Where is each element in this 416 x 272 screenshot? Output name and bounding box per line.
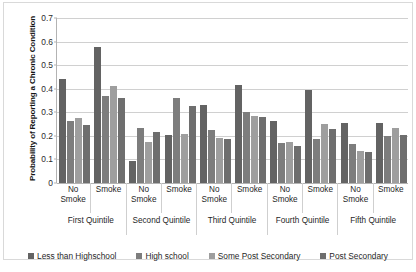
y-axis-title: Probability of Reporting a Chronic Condi… xyxy=(28,14,37,184)
bar xyxy=(94,47,101,183)
bar xyxy=(259,117,266,183)
bar xyxy=(321,124,328,183)
chart-container: Probability of Reporting a Chronic Condi… xyxy=(0,0,416,272)
legend-swatch-icon xyxy=(136,253,142,259)
bar xyxy=(75,118,82,183)
bar xyxy=(137,128,144,183)
bar-group xyxy=(374,18,409,183)
bar-group xyxy=(92,18,127,183)
legend-swatch-icon xyxy=(28,253,34,259)
bar-group xyxy=(303,18,338,183)
bar-group xyxy=(163,18,198,183)
bar xyxy=(235,85,242,183)
x-axis-category-label: Smoke xyxy=(162,183,197,213)
x-axis: NoSmokeSmokeNoSmokeSmokeNoSmokeSmokeNoSm… xyxy=(56,183,408,235)
bar xyxy=(208,130,215,183)
legend-swatch-icon xyxy=(320,253,326,259)
x-axis-smoke-labels: NoSmokeSmokeNoSmokeSmokeNoSmokeSmokeNoSm… xyxy=(56,183,408,213)
bar xyxy=(129,161,136,183)
bar xyxy=(329,129,336,183)
plot-area: 00.10.20.30.40.50.60.7 xyxy=(56,18,408,183)
legend-label: Less than Highschool xyxy=(37,251,116,261)
bar xyxy=(153,132,160,183)
bar xyxy=(118,98,125,183)
bar xyxy=(278,143,285,183)
x-axis-category-label: Smoke xyxy=(303,183,338,213)
x-axis-quintile-label: Third Quintile xyxy=(197,213,268,235)
y-tick-label: 0.3 xyxy=(41,107,53,117)
x-axis-category-label: NoSmoke xyxy=(338,183,373,213)
y-tick-label: 0.1 xyxy=(41,154,53,164)
bar xyxy=(224,139,231,183)
x-axis-quintile-label: Fifth Quintile xyxy=(338,213,408,235)
x-axis-category-label: Smoke xyxy=(232,183,267,213)
bottom-edge-strip xyxy=(0,262,416,272)
legend-label: High school xyxy=(145,251,188,261)
x-axis-quintile-labels: First QuintileSecond QuintileThird Quint… xyxy=(56,213,408,235)
x-axis-category-label: NoSmoke xyxy=(268,183,303,213)
legend-label: Post Secondary xyxy=(329,251,388,261)
x-axis-category-label: Smoke xyxy=(91,183,126,213)
bar xyxy=(313,139,320,183)
x-axis-category-label: Smoke xyxy=(374,183,408,213)
bar xyxy=(173,98,180,183)
bar xyxy=(200,105,207,183)
bar xyxy=(83,125,90,183)
y-tick-label: 0 xyxy=(48,178,53,188)
bar xyxy=(59,79,66,183)
bar xyxy=(67,121,74,183)
bar-group xyxy=(198,18,233,183)
legend-label: Some Post Secondary xyxy=(218,251,301,261)
bar-group xyxy=(127,18,162,183)
bar xyxy=(376,123,383,183)
x-axis-quintile-label: Fourth Quintile xyxy=(268,213,339,235)
x-axis-category-label: NoSmoke xyxy=(197,183,232,213)
bar xyxy=(294,146,301,183)
bar-group xyxy=(339,18,374,183)
bar xyxy=(165,135,172,183)
bar-group xyxy=(268,18,303,183)
bar xyxy=(243,112,250,183)
legend-swatch-icon xyxy=(209,253,215,259)
bar xyxy=(189,106,196,183)
bar xyxy=(365,152,372,183)
bar-group xyxy=(57,18,92,183)
bar xyxy=(286,142,293,183)
y-tick-label: 0.5 xyxy=(41,60,53,70)
y-tick-label: 0.7 xyxy=(41,13,53,23)
bar xyxy=(181,134,188,184)
bar xyxy=(145,142,152,183)
bar xyxy=(305,90,312,183)
y-tick-label: 0.2 xyxy=(41,131,53,141)
bar xyxy=(341,123,348,183)
x-axis-quintile-label: First Quintile xyxy=(56,213,127,235)
x-axis-category-label: NoSmoke xyxy=(127,183,162,213)
x-axis-quintile-label: Second Quintile xyxy=(127,213,198,235)
bar xyxy=(102,96,109,183)
legend-item[interactable]: Post Secondary xyxy=(320,251,388,261)
bar xyxy=(357,151,364,183)
bar xyxy=(270,121,277,183)
legend-item[interactable]: High school xyxy=(136,251,188,261)
bar xyxy=(110,86,117,183)
y-tick-label: 0.4 xyxy=(41,84,53,94)
legend-item[interactable]: Some Post Secondary xyxy=(209,251,301,261)
bar xyxy=(251,116,258,183)
bar-group xyxy=(233,18,268,183)
bar xyxy=(392,128,399,183)
bar xyxy=(400,135,407,183)
y-tick-label: 0.6 xyxy=(41,37,53,47)
bar xyxy=(384,136,391,183)
bar-series-layer xyxy=(57,18,408,183)
x-axis-category-label: NoSmoke xyxy=(56,183,91,213)
legend-item[interactable]: Less than Highschool xyxy=(28,251,116,261)
bar xyxy=(216,138,223,183)
bar xyxy=(349,144,356,183)
